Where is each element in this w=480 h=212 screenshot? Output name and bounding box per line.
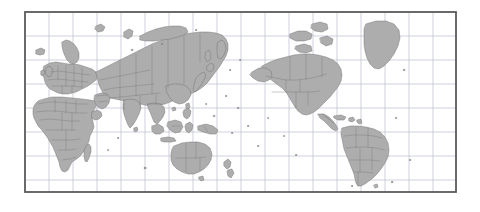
hainan-island [172, 107, 176, 111]
world-map-svg [0, 0, 480, 212]
java-island [161, 137, 176, 142]
falkland-islands [374, 184, 378, 188]
world-map-figure [0, 0, 480, 212]
sakhalin-island [205, 50, 211, 62]
